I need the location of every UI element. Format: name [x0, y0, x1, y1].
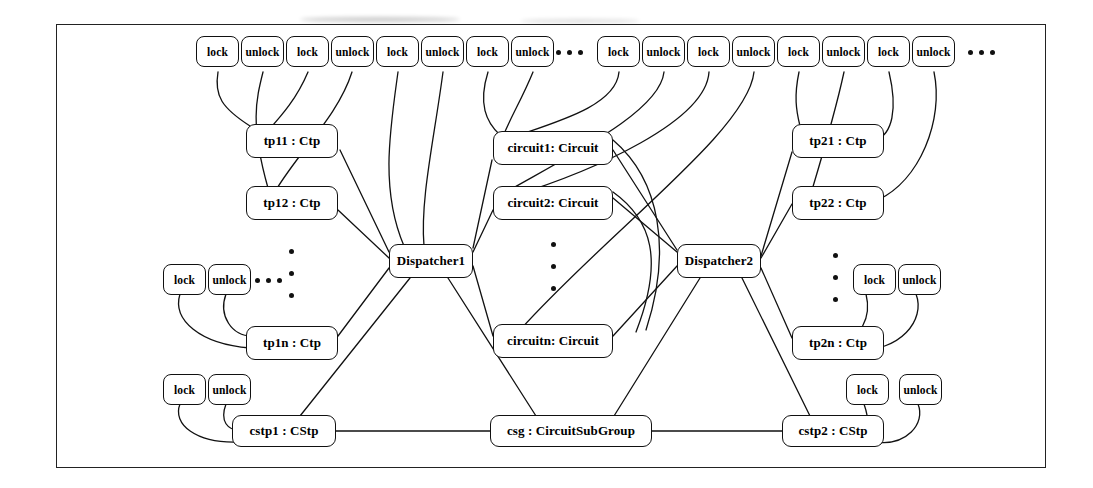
object-cstp1-label: cstp1 : CStp — [249, 423, 318, 439]
tp2-column-ellipsis — [833, 253, 838, 302]
op-unlock-cstp1-label: unlock — [213, 384, 247, 396]
object-circuit1[interactable]: circuit1: Circuit — [493, 131, 613, 165]
op-lock-1[interactable]: lock — [196, 36, 239, 67]
object-tp1n-label: tp1n : Ctp — [263, 335, 321, 351]
op-unlock-5-label: unlock — [647, 46, 681, 58]
edge-circuit2-bundle — [613, 192, 651, 332]
object-tp12[interactable]: tp12 : Ctp — [246, 186, 338, 220]
op-unlock-1-label: unlock — [246, 46, 280, 58]
object-tp2n[interactable]: tp2n : Ctp — [792, 326, 884, 360]
op-unlock-8[interactable]: unlock — [912, 36, 955, 67]
op-unlock-3-label: unlock — [426, 46, 460, 58]
edge-circuit1-bundle — [613, 140, 659, 330]
edge-dispatcher2-tp22 — [761, 204, 792, 258]
op-lock-1-label: lock — [207, 46, 228, 58]
object-circuit1-label: circuit1: Circuit — [507, 140, 598, 156]
object-cstp1[interactable]: cstp1 : CStp — [232, 415, 336, 447]
op-lock-cstp2[interactable]: lock — [846, 374, 889, 405]
op-lock-7[interactable]: lock — [777, 36, 820, 67]
edge-lock-cstp1 — [178, 404, 240, 442]
top-ellipsis-right — [968, 50, 995, 55]
object-circuit2[interactable]: circuit2: Circuit — [493, 186, 613, 220]
op-unlock-2-label: unlock — [336, 46, 370, 58]
op-lock-tp2n-label: lock — [864, 274, 885, 286]
object-tp21[interactable]: tp21 : Ctp — [792, 124, 884, 158]
tp1-column-ellipsis — [289, 249, 294, 298]
op-lock-6[interactable]: lock — [687, 36, 730, 67]
op-unlock-cstp2-label: unlock — [904, 384, 938, 396]
op-lock-8[interactable]: lock — [867, 36, 910, 67]
op-unlock-6[interactable]: unlock — [732, 36, 775, 67]
edge-lock-tp1n — [179, 294, 250, 348]
top-ellipsis-center — [556, 50, 583, 55]
op-lock-tp2n[interactable]: lock — [853, 264, 896, 295]
diagram-canvas: lockunlocklockunlocklockunlocklockunlock… — [0, 0, 1093, 488]
op-lock-3[interactable]: lock — [376, 36, 419, 67]
op-unlock-7[interactable]: unlock — [822, 36, 865, 67]
object-tp1n[interactable]: tp1n : Ctp — [246, 326, 338, 360]
op-lock-cstp2-label: lock — [857, 384, 878, 396]
op-unlock-cstp2[interactable]: unlock — [899, 374, 942, 405]
edge-dispatcher2-circuit2 — [613, 198, 677, 252]
op-unlock-1[interactable]: unlock — [241, 36, 284, 67]
object-tp21-label: tp21 : Ctp — [809, 133, 866, 149]
edge-dispatcher1-tp1n — [338, 268, 389, 336]
edge-dispatcher2-csg — [614, 278, 700, 416]
op-unlock-2[interactable]: unlock — [331, 36, 374, 67]
op-unlock-6-label: unlock — [737, 46, 771, 58]
op-lock-8-label: lock — [878, 46, 899, 58]
op-lock-tp1n-label: lock — [174, 274, 195, 286]
object-circuit2-label: circuit2: Circuit — [507, 195, 598, 211]
op-lock-4-label: lock — [477, 46, 498, 58]
edge-unlock8-tp22 — [878, 72, 936, 200]
edge-lock3-dispatcher1 — [389, 72, 404, 246]
op-unlock-3[interactable]: unlock — [421, 36, 464, 67]
edge-dispatcher2-circuitn — [613, 266, 677, 336]
edge-dispatcher2-tp2n — [761, 268, 792, 338]
edge-lock4-circuit1 — [484, 72, 500, 135]
op-lock-2-label: lock — [297, 46, 318, 58]
edge-dispatcher1-circuit1 — [473, 160, 492, 248]
edge-unlock3-dispatcher1 — [423, 72, 443, 246]
op-lock-5-label: lock — [608, 46, 629, 58]
object-tp11[interactable]: tp11 : Ctp — [246, 124, 338, 158]
op-unlock-8-label: unlock — [917, 46, 951, 58]
op-unlock-7-label: unlock — [827, 46, 861, 58]
object-circuitn[interactable]: circuitn: Circuit — [493, 324, 613, 358]
object-dispatcher2[interactable]: Dispatcher2 — [677, 244, 761, 278]
edge-dispatcher1-circuitn — [473, 266, 493, 336]
object-csg-label: csg : CircuitSubGroup — [507, 423, 635, 439]
object-circuitn-label: circuitn: Circuit — [507, 333, 599, 349]
edge-lock7-tp21 — [796, 72, 800, 126]
op-lock-7-label: lock — [788, 46, 809, 58]
edge-dispatcher2-tp21 — [761, 152, 792, 256]
object-dispatcher1-label: Dispatcher1 — [397, 253, 465, 269]
op-unlock-cstp1[interactable]: unlock — [208, 374, 251, 405]
op-lock-5[interactable]: lock — [597, 36, 640, 67]
op-unlock-4-label: unlock — [516, 46, 550, 58]
op-lock-cstp1[interactable]: lock — [163, 374, 206, 405]
object-tp22[interactable]: tp22 : Ctp — [792, 186, 884, 220]
object-tp11-label: tp11 : Ctp — [264, 133, 321, 149]
object-cstp2[interactable]: cstp2 : CStp — [782, 415, 884, 447]
op-lock-cstp1-label: lock — [174, 384, 195, 396]
edge-dispatcher1-circuit2 — [473, 210, 493, 252]
edge-dispatcher1-tp11 — [340, 150, 389, 252]
op-lock-3-label: lock — [387, 46, 408, 58]
op-lock-6-label: lock — [698, 46, 719, 58]
op-lock-tp1n[interactable]: lock — [163, 264, 206, 295]
tp1n-ellipsis — [255, 278, 282, 283]
edge-dispatcher1-tp12 — [338, 210, 389, 258]
object-tp12-label: tp12 : Ctp — [263, 195, 320, 211]
op-unlock-tp1n[interactable]: unlock — [208, 264, 251, 295]
op-unlock-tp2n[interactable]: unlock — [898, 264, 941, 295]
op-lock-2[interactable]: lock — [286, 36, 329, 67]
edge-lock1-tp11 — [217, 72, 250, 126]
op-unlock-tp1n-label: unlock — [213, 274, 247, 286]
op-unlock-tp2n-label: unlock — [903, 274, 937, 286]
object-csg[interactable]: csg : CircuitSubGroup — [490, 415, 652, 447]
object-dispatcher1[interactable]: Dispatcher1 — [389, 244, 473, 278]
op-unlock-4[interactable]: unlock — [511, 36, 554, 67]
op-unlock-5[interactable]: unlock — [642, 36, 685, 67]
op-lock-4[interactable]: lock — [466, 36, 509, 67]
